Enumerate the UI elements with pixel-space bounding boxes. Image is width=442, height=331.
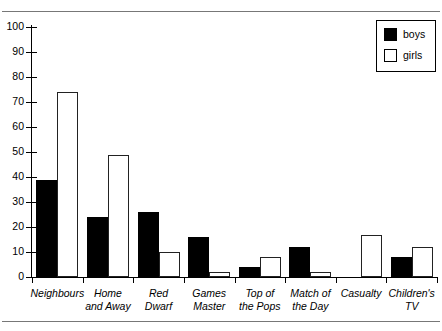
legend-swatch-boys-icon	[384, 28, 397, 41]
y-tick-label: 100	[0, 21, 24, 32]
bar-boys	[289, 247, 310, 277]
bar-chart-figure: 0102030405060708090100 NeighboursHome an…	[0, 0, 442, 331]
x-tick-4	[285, 277, 286, 283]
bar-girls	[209, 272, 230, 277]
y-tick-label: 30	[0, 196, 24, 207]
bar-boys	[239, 267, 260, 277]
y-tick-label: 90	[0, 46, 24, 57]
x-tick-origin	[32, 277, 33, 283]
y-tick-label: 80	[0, 71, 24, 82]
x-tick-3	[235, 277, 236, 283]
y-tick-label: 70	[0, 96, 24, 107]
x-tick-7	[437, 277, 438, 283]
bar-girls	[310, 272, 331, 277]
legend-entry-girls: girls	[384, 49, 422, 62]
bar-girls	[108, 155, 129, 278]
legend-label-girls: girls	[403, 50, 422, 61]
x-tick-0	[83, 277, 84, 283]
y-tick-label: 0	[0, 271, 24, 282]
chart-legend: boys girls	[376, 20, 436, 72]
bar-boys	[138, 212, 159, 277]
y-tick-label: 20	[0, 221, 24, 232]
legend-entry-boys: boys	[384, 28, 425, 41]
bar-girls	[159, 252, 180, 277]
bar-girls	[260, 257, 281, 277]
x-tick-2	[184, 277, 185, 283]
y-tick-label: 60	[0, 121, 24, 132]
top-rule	[2, 11, 440, 12]
y-tick-label: 50	[0, 146, 24, 157]
bar-boys	[391, 257, 412, 277]
bar-boys	[188, 237, 209, 277]
bar-girls	[361, 235, 382, 278]
x-axis-label: Children's TV	[382, 287, 441, 312]
legend-swatch-girls-icon	[384, 49, 397, 62]
y-tick-label: 10	[0, 246, 24, 257]
bar-girls	[412, 247, 433, 277]
bottom-rule	[2, 321, 440, 322]
bar-boys	[36, 180, 57, 278]
legend-label-boys: boys	[403, 29, 425, 40]
x-tick-6	[386, 277, 387, 283]
y-tick-label: 40	[0, 171, 24, 182]
bar-boys	[87, 217, 108, 277]
x-axis-line	[26, 277, 437, 278]
x-tick-1	[133, 277, 134, 283]
bar-girls	[57, 92, 78, 277]
x-tick-5	[336, 277, 337, 283]
